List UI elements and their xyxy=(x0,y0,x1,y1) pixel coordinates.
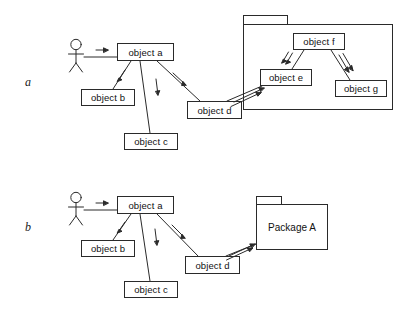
panel-a-link-f-g xyxy=(331,50,350,80)
panel-a-arrow-actor-objecta xyxy=(96,48,108,52)
panel-a-arrow-a-c xyxy=(156,79,160,95)
panel-a-link-a-c xyxy=(140,61,150,133)
panel-a-actor-icon xyxy=(69,39,84,72)
panel-b-arrow-a-b xyxy=(118,222,126,233)
panel-b-actor-icon xyxy=(69,192,84,225)
panel-a-arrow-f-g xyxy=(339,54,353,73)
panel-b-link-a-c xyxy=(140,214,150,281)
panel-a-arrow-a-d xyxy=(173,73,186,85)
panel-a-arrow-a-b xyxy=(118,70,126,82)
panel-b-arrow-actor-objecta xyxy=(96,201,108,205)
panel-b-link-a-d xyxy=(157,214,198,256)
panel-a-arrow-f-e xyxy=(282,52,293,64)
diagram-vector-layer xyxy=(0,0,402,310)
panel-b-arrow-a-c xyxy=(155,229,159,245)
panel-b-arrow-d-package xyxy=(227,244,256,260)
panel-a-link-f-e xyxy=(292,50,304,69)
panel-a-link-a-d xyxy=(157,61,200,101)
